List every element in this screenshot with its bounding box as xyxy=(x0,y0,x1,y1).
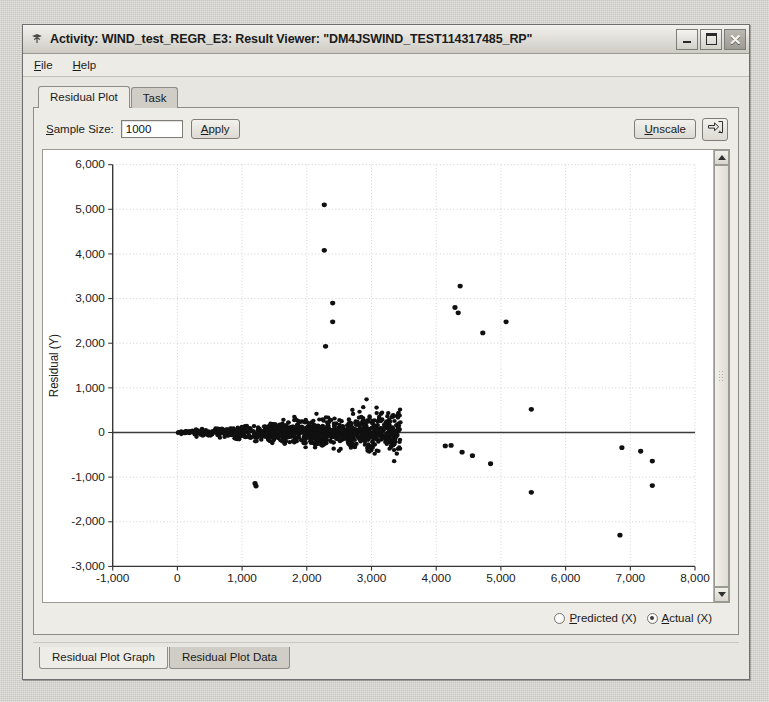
svg-text:-3,000: -3,000 xyxy=(71,560,104,572)
radio-actual-text: ctual (X) xyxy=(669,612,712,624)
bottom-tab-residual-plot-graph[interactable]: Residual Plot Graph xyxy=(39,647,168,669)
svg-text:2,000: 2,000 xyxy=(75,337,105,349)
application-icon xyxy=(29,31,45,47)
svg-text:Residual (Y): Residual (Y) xyxy=(46,334,60,397)
menu-help-label: elp xyxy=(81,59,96,71)
svg-text:4,000: 4,000 xyxy=(75,248,105,260)
svg-text:5,000: 5,000 xyxy=(486,572,516,584)
maximize-button[interactable] xyxy=(700,29,722,50)
sample-size-input[interactable] xyxy=(121,120,183,138)
svg-text:7,000: 7,000 xyxy=(616,572,646,584)
svg-text:8,000: 8,000 xyxy=(680,572,710,584)
svg-text:6,000: 6,000 xyxy=(75,159,105,171)
menubar: File Help xyxy=(23,54,749,77)
radio-actual-indicator xyxy=(647,613,658,624)
tab-residual-plot[interactable]: Residual Plot xyxy=(38,86,130,108)
svg-text:6,000: 6,000 xyxy=(551,572,581,584)
menu-file-label: ile xyxy=(41,59,53,71)
svg-text:-1,000: -1,000 xyxy=(96,572,129,584)
svg-text:5,000: 5,000 xyxy=(75,203,105,215)
radio-actual-x[interactable]: Actual (X) xyxy=(647,612,713,624)
apply-button[interactable]: Apply xyxy=(191,119,240,139)
svg-text:-1,000: -1,000 xyxy=(71,471,104,483)
svg-text:1,000: 1,000 xyxy=(227,572,257,584)
scrollbar-grip-icon xyxy=(718,370,725,382)
svg-text:0: 0 xyxy=(174,572,181,584)
unscale-mnemonic: U xyxy=(644,123,652,135)
svg-text:0: 0 xyxy=(98,427,105,439)
sample-size-label-text: ample Size: xyxy=(54,123,114,135)
result-viewer-window: Activity: WIND_test_REGR_E3: Result View… xyxy=(22,24,750,680)
scroll-down-arrow-icon xyxy=(718,592,726,597)
window-body: Residual Plot Task Sample Size: Apply Un… xyxy=(23,77,749,679)
chart-container: -3,000-2,000-1,00001,0002,0003,0004,0005… xyxy=(42,149,730,603)
minimize-icon xyxy=(683,41,691,43)
sample-size-mnemonic: S xyxy=(46,123,54,135)
window-title: Activity: WIND_test_REGR_E3: Result View… xyxy=(50,32,676,46)
scroll-up-button[interactable] xyxy=(714,150,729,165)
radio-predicted-x[interactable]: Predicted (X) xyxy=(554,612,636,624)
radio-actual-label: Actual (X) xyxy=(662,612,713,624)
scroll-up-arrow-icon xyxy=(718,155,726,160)
svg-text:3,000: 3,000 xyxy=(357,572,387,584)
unscale-button[interactable]: Unscale xyxy=(634,119,696,139)
svg-text:3,000: 3,000 xyxy=(75,293,105,305)
window-titlebar[interactable]: Activity: WIND_test_REGR_E3: Result View… xyxy=(23,25,749,54)
radio-predicted-text: redicted (X) xyxy=(577,612,636,624)
scrollbar-thumb[interactable] xyxy=(714,165,729,587)
apply-label: pply xyxy=(208,123,229,135)
menu-help-mnemonic: H xyxy=(73,59,81,71)
tabstrip-top: Residual Plot Task xyxy=(33,86,739,108)
sample-size-label: Sample Size: xyxy=(46,123,114,135)
svg-text:-2,000: -2,000 xyxy=(71,516,104,528)
x-axis-source-options: Predicted (X) Actual (X) xyxy=(42,608,730,628)
menu-item-help[interactable]: Help xyxy=(70,57,100,73)
svg-text:2,000: 2,000 xyxy=(292,572,322,584)
scrollbar-track[interactable] xyxy=(714,165,729,587)
export-arrow-icon xyxy=(707,120,724,138)
close-button[interactable]: ✕ xyxy=(724,29,746,50)
tabstrip-bottom: Residual Plot Graph Residual Plot Data xyxy=(33,642,739,671)
desktop-background: Activity: WIND_test_REGR_E3: Result View… xyxy=(0,0,769,702)
maximize-icon xyxy=(706,33,717,45)
chart-toolbar: Sample Size: Apply Unscale xyxy=(42,116,730,142)
export-button[interactable] xyxy=(702,118,728,141)
unscale-label: nscale xyxy=(653,123,686,135)
menu-item-file[interactable]: File xyxy=(31,57,56,73)
menu-file-mnemonic: F xyxy=(34,59,41,71)
tab-task[interactable]: Task xyxy=(131,87,179,108)
svg-text:1,000: 1,000 xyxy=(75,382,105,394)
radio-predicted-indicator xyxy=(554,613,565,624)
scroll-down-button[interactable] xyxy=(714,587,729,602)
residual-scatter-chart[interactable]: -3,000-2,000-1,00001,0002,0003,0004,0005… xyxy=(43,150,713,602)
radio-predicted-mnemonic: P xyxy=(569,612,577,624)
window-controls: ✕ xyxy=(676,29,746,50)
minimize-button[interactable] xyxy=(676,29,698,50)
close-icon: ✕ xyxy=(729,32,742,47)
radio-predicted-label: Predicted (X) xyxy=(569,612,636,624)
svg-text:4,000: 4,000 xyxy=(421,572,451,584)
bottom-tab-residual-plot-data[interactable]: Residual Plot Data xyxy=(169,647,290,669)
scatter-plot-svg: -3,000-2,000-1,00001,0002,0003,0004,0005… xyxy=(43,150,713,602)
chart-vertical-scrollbar[interactable] xyxy=(713,150,729,602)
tab-panel-residual-plot: Sample Size: Apply Unscale xyxy=(33,107,739,635)
